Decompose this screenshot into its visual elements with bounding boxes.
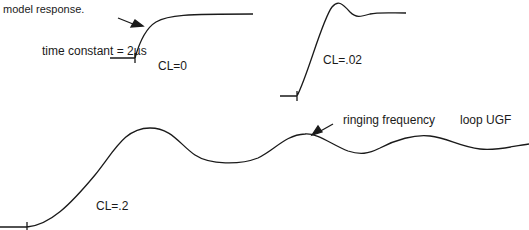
caption-fragment: model response.	[3, 2, 84, 16]
cl2-label: CL=.2	[96, 199, 128, 213]
arrow-ringing-head	[312, 126, 322, 135]
ringing-frequency-label: ringing frequency	[343, 113, 435, 127]
arrow-time-constant-head	[131, 20, 143, 27]
cl02-label: CL=.02	[323, 53, 362, 67]
step-response-diagram	[0, 0, 529, 230]
loop-ugf-label: loop UGF	[460, 113, 511, 127]
time-constant-label: time constant = 2µs	[42, 44, 147, 58]
cl0-label: CL=0	[158, 59, 187, 73]
curve-cl2	[0, 128, 529, 230]
